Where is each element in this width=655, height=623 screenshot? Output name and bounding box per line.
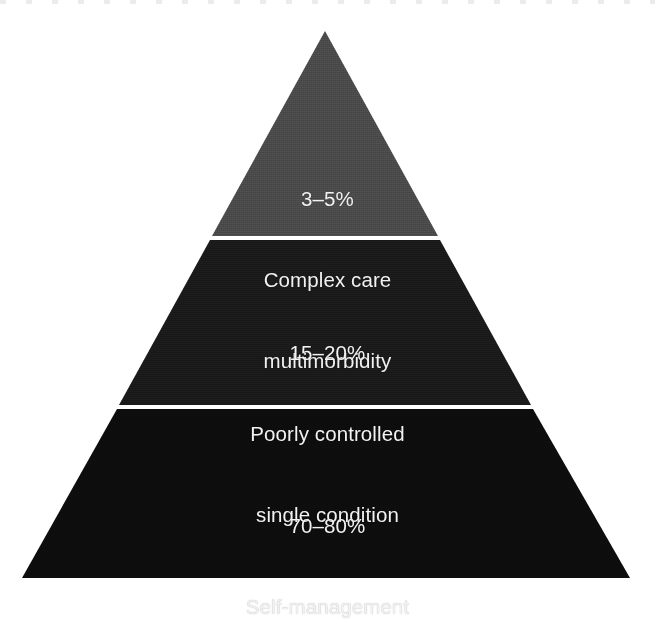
tier-3-line-2: Self-management <box>0 593 655 620</box>
pyramid-tier-3-label: 70–80% Self-management <box>0 458 655 623</box>
tier-1-percent: 3–5% <box>0 185 655 212</box>
tier-3-percent: 70–80% <box>0 512 655 539</box>
tier-2-percent: 15–20% <box>0 339 655 366</box>
tier-2-line-2: Poorly controlled <box>0 420 655 447</box>
